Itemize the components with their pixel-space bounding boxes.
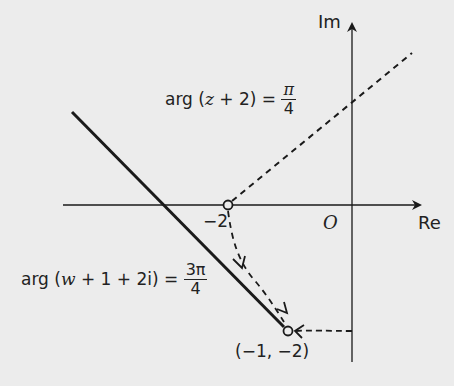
equation-w-suffix: + 1 + 2i) = [76, 269, 184, 289]
equation-z-suffix: + 2) = [214, 89, 282, 109]
argand-diagram [0, 0, 454, 386]
equation-z-denominator: 4 [281, 100, 296, 117]
origin-label: O [323, 214, 338, 232]
arrow-head-icon [233, 256, 245, 268]
arrow-head-icon [277, 302, 287, 313]
half-line-z [232, 53, 412, 201]
equation-w-denominator: 4 [184, 280, 208, 297]
equation-w-numerator: 3π [184, 262, 208, 280]
point-coordinates-label: (−1, −2) [235, 343, 309, 360]
equation-z-prefix: arg ( [165, 89, 205, 109]
equation-arg-z: arg (z + 2) = π4 [165, 82, 296, 117]
equation-arg-w: arg (w + 1 + 2i) = 3π4 [21, 262, 207, 297]
point-minus-one-minus-two [284, 327, 293, 336]
dashed-path-minimum-distance [228, 211, 284, 322]
equation-z-fraction: π4 [281, 82, 296, 117]
equation-w-fraction: 3π4 [184, 262, 208, 297]
imaginary-axis-label: Im [318, 13, 341, 31]
minus-two-label: −2 [203, 213, 228, 230]
real-axis-label: Re [418, 214, 441, 232]
point-minus-two [224, 201, 233, 210]
equation-z-numerator: π [281, 82, 296, 100]
equation-w-variable: w [61, 269, 76, 289]
equation-w-prefix: arg ( [21, 269, 61, 289]
equation-z-variable: z [205, 89, 214, 109]
